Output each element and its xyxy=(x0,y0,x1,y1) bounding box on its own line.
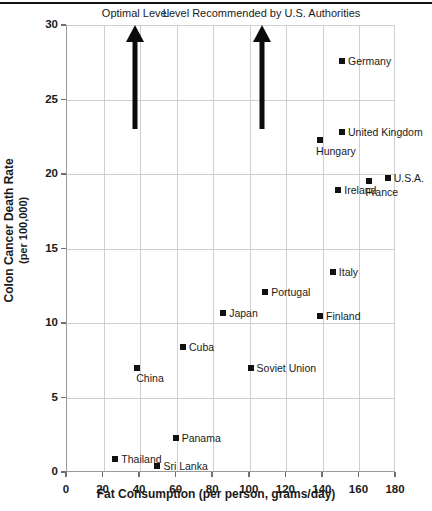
x-tick-mark xyxy=(102,472,104,477)
data-point-marker xyxy=(330,269,336,275)
data-point-label: Finland xyxy=(326,311,360,322)
x-tick-mark xyxy=(138,472,140,477)
y-tick-label: 5 xyxy=(52,392,58,404)
data-point-marker xyxy=(180,344,186,350)
y-tick-label: 15 xyxy=(45,243,58,255)
y-axis-title-units: (per 100,000) xyxy=(17,130,31,330)
data-point-marker xyxy=(339,58,345,64)
y-tick-label: 20 xyxy=(45,168,58,180)
plot-frame-top xyxy=(67,25,395,26)
y-tick-mark xyxy=(61,248,66,250)
y-tick-label: 0 xyxy=(52,466,58,478)
data-point-label: China xyxy=(136,373,163,384)
x-tick-mark xyxy=(211,472,213,477)
gridline-horizontal xyxy=(67,323,395,324)
gridline-horizontal xyxy=(67,100,395,101)
data-point-label: Italy xyxy=(339,267,358,278)
data-point-marker xyxy=(339,129,345,135)
gridline-horizontal xyxy=(67,249,395,250)
x-tick-mark xyxy=(321,472,323,477)
data-point-marker xyxy=(134,365,140,371)
data-point-label: Cuba xyxy=(189,342,214,353)
y-tick-label: 10 xyxy=(45,317,58,329)
data-point-marker xyxy=(385,175,391,181)
y-axis-title: Colon Cancer Death Rate (per 100,000) xyxy=(2,130,31,330)
data-point-label: Ireland xyxy=(344,185,376,196)
data-point-label: Panama xyxy=(182,433,221,444)
x-tick-mark xyxy=(65,472,67,477)
x-tick-mark xyxy=(175,472,177,477)
data-point-marker xyxy=(317,313,323,319)
x-axis-title: Fat Consumption (per person, grams/day) xyxy=(0,487,432,501)
arrow-head-icon xyxy=(126,25,144,42)
y-tick-label: 25 xyxy=(45,94,58,106)
y-tick-mark xyxy=(61,24,66,26)
data-point-marker xyxy=(262,289,268,295)
y-axis-title-main: Colon Cancer Death Rate xyxy=(2,158,16,302)
data-point-marker xyxy=(335,187,341,193)
data-point-marker xyxy=(248,365,254,371)
data-point-label: United Kingdom xyxy=(348,127,423,138)
y-tick-mark xyxy=(61,471,66,473)
annotation-label: Level Recommended by U.S. Authorities xyxy=(163,8,361,19)
arrow-head-icon xyxy=(253,25,271,42)
y-tick-mark xyxy=(61,397,66,399)
data-point-label: Soviet Union xyxy=(257,363,317,374)
data-point-marker xyxy=(317,137,323,143)
y-tick-mark xyxy=(61,322,66,324)
y-tick-mark xyxy=(61,173,66,175)
data-point-marker xyxy=(154,463,160,469)
y-tick-label: 30 xyxy=(45,19,58,31)
arrow-shaft xyxy=(259,33,264,129)
gridline-horizontal xyxy=(67,398,395,399)
data-point-label: Sri Lanka xyxy=(163,461,207,472)
data-point-label: Hungary xyxy=(316,146,356,157)
y-tick-mark xyxy=(61,99,66,101)
data-point-label: Japan xyxy=(229,308,258,319)
arrow-shaft xyxy=(133,33,138,129)
x-tick-mark xyxy=(358,472,360,477)
annotation-label: Optimal Level xyxy=(102,8,169,19)
plot-area xyxy=(66,25,395,472)
data-point-marker xyxy=(220,310,226,316)
data-point-marker xyxy=(112,456,118,462)
x-tick-mark xyxy=(248,472,250,477)
data-point-label: U.S.A. xyxy=(394,173,424,184)
data-point-marker xyxy=(173,435,179,441)
data-point-label: Portugal xyxy=(271,287,310,298)
data-point-label: Germany xyxy=(348,56,391,67)
scatter-chart: 020406080100120140160180051015202530 Ger… xyxy=(0,0,432,511)
gridline-horizontal xyxy=(67,174,395,175)
x-tick-mark xyxy=(285,472,287,477)
top-rule xyxy=(0,2,432,4)
x-tick-mark xyxy=(394,472,396,477)
